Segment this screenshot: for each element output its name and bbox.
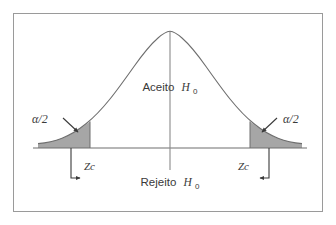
left-alpha-label: α/2 [32,112,48,126]
reject-region-word: Rejeito [141,176,177,188]
reject-region-symbol: H [183,176,193,188]
accept-region-word: Aceito [142,81,174,93]
accept-region-subscript: 0 [193,87,198,96]
right-zc-label: Zc [238,160,249,172]
right-alpha-label: α/2 [283,112,299,126]
distribution-chart: Aceito H 0 Rejeito H 0 α/2 α/2 Zc Zc [0,0,336,225]
reject-region-subscript: 0 [195,182,200,191]
accept-region-symbol: H [181,81,191,93]
figure-container: Aceito H 0 Rejeito H 0 α/2 α/2 Zc Zc [0,0,336,225]
left-zc-label: Zc [84,160,95,172]
